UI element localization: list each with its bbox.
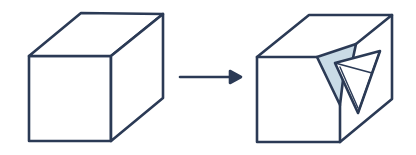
intact-cube	[29, 13, 163, 141]
chipped-cube	[257, 15, 392, 142]
cube-fracture-diagram	[0, 0, 416, 155]
arrow-head-icon	[230, 71, 241, 83]
intact-cube-front-face	[29, 56, 111, 141]
transition-arrow	[180, 71, 241, 83]
diagram-canvas	[0, 0, 416, 155]
chipped-cube-top-face	[257, 15, 392, 57]
